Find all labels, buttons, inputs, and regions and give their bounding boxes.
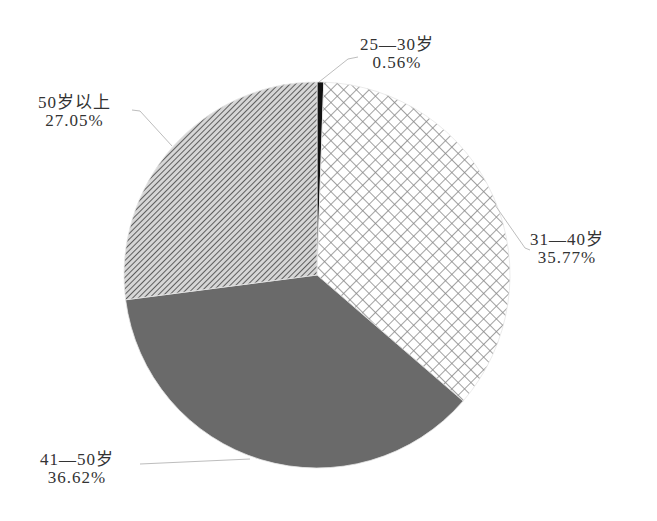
label-percent: 0.56% [360, 54, 434, 72]
label-percent: 35.77% [530, 249, 604, 267]
pie-slice-3 [124, 82, 317, 300]
label-percent: 36.62% [40, 469, 114, 487]
data-label-41-50: 41—50岁 36.62% [40, 451, 114, 487]
label-name: 31—40岁 [530, 231, 604, 249]
leader-line-41-50 [140, 459, 250, 464]
pie-slices [124, 82, 510, 468]
data-label-50plus: 50岁以上 27.05% [38, 94, 111, 130]
leader-line-50plus [132, 110, 172, 146]
label-name: 50岁以上 [38, 94, 111, 112]
label-percent: 27.05% [38, 112, 111, 130]
data-label-31-40: 31—40岁 35.77% [530, 231, 604, 267]
label-name: 41—50岁 [40, 451, 114, 469]
label-name: 25—30岁 [360, 36, 434, 54]
leader-line-25-30 [319, 57, 358, 82]
data-label-25-30: 25—30岁 0.56% [360, 36, 434, 72]
